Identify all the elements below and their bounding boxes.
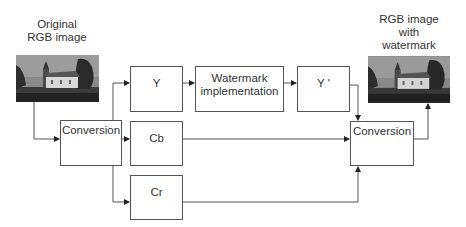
- conversion-input-label: Conversion: [61, 124, 121, 136]
- y-block: Y: [130, 66, 183, 112]
- watermark-label-line1: Watermark: [196, 72, 283, 85]
- watermark-label: Watermark implementation: [196, 72, 283, 98]
- y-prime-block: Y ': [297, 66, 350, 112]
- conversion-output-label: Conversion: [351, 125, 413, 137]
- cb-label: Cb: [131, 132, 182, 144]
- connector-lines: [0, 0, 466, 227]
- watermark-implementation-block: Watermark implementation: [195, 66, 284, 112]
- y-label: Y: [131, 77, 182, 89]
- conversion-output-block: Conversion: [350, 121, 414, 166]
- cb-block: Cb: [130, 121, 183, 166]
- cr-block: Cr: [130, 175, 183, 220]
- conversion-input-block: Conversion: [60, 120, 122, 166]
- watermark-label-line2: implementation: [196, 85, 283, 98]
- cr-label: Cr: [131, 186, 182, 198]
- y-prime-label: Y ': [298, 77, 349, 89]
